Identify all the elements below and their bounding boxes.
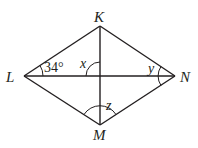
angle-arc-L [40, 66, 43, 77]
vertex-label-N: N [179, 69, 191, 85]
vertex-label-M: M [92, 127, 107, 143]
rhombus-diagram: K L N M 34° x y z [0, 0, 198, 148]
angle-label-y: y [146, 61, 155, 76]
vertex-label-L: L [5, 69, 14, 85]
angle-label-z: z [105, 98, 112, 113]
angle-label-34: 34° [44, 60, 64, 75]
vertex-label-K: K [93, 9, 105, 25]
side-LM [24, 76, 100, 125]
angle-arc-x [86, 62, 100, 76]
side-KN [100, 26, 175, 76]
angle-label-x: x [79, 56, 87, 71]
